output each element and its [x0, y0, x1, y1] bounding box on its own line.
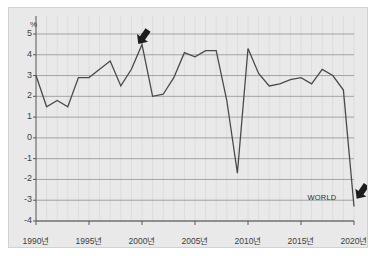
y-axis-tick-label: -4	[10, 215, 32, 225]
x-axis-tick-label: 2015년	[278, 234, 324, 246]
y-axis-tick-label: 0	[10, 132, 32, 142]
y-axis-tick-label: 4	[10, 49, 32, 59]
x-axis-tick-label: 1990년	[13, 234, 59, 246]
arrow-peak-2000	[133, 26, 154, 48]
x-axis-tick-label: 1995년	[66, 234, 112, 246]
x-axis-ticks-group	[36, 221, 354, 225]
y-axis-tick-label: 1	[10, 111, 32, 121]
x-axis-tick-label: 2000년	[119, 234, 165, 246]
gridlines-group	[36, 16, 354, 221]
x-axis-tick-label: 2010년	[225, 234, 271, 246]
line-chart-canvas	[9, 8, 367, 247]
chart-figure: % 543210-1-2-3-4 1990년1995년2000년2005년201…	[0, 0, 375, 256]
y-axis-tick-label: 2	[10, 90, 32, 100]
x-axis-tick-label: 2005년	[172, 234, 218, 246]
y-axis-tick-label: 5	[10, 28, 32, 38]
y-axis-tick-label: 3	[10, 70, 32, 80]
y-axis-tick-label: -1	[10, 153, 32, 163]
plot-area: % 543210-1-2-3-4 1990년1995년2000년2005년201…	[8, 7, 368, 248]
x-axis-tick-label: 2020년	[331, 234, 368, 246]
axis-group	[33, 16, 354, 221]
series-label-world: WORLD	[308, 193, 337, 202]
y-axis-tick-label: -3	[10, 194, 32, 204]
y-axis-tick-label: -2	[10, 173, 32, 183]
